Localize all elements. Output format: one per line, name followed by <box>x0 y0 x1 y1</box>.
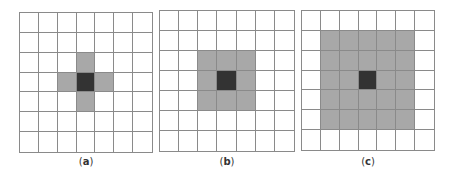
grid-cell <box>160 131 179 151</box>
grid-cell <box>302 110 321 130</box>
grid-cell <box>198 131 217 151</box>
grid-cell <box>39 33 58 53</box>
grid-cell <box>160 91 179 111</box>
grid-cell <box>275 111 294 131</box>
grid-cell <box>179 51 198 71</box>
grid-cell <box>359 130 378 150</box>
neighbor-cell <box>77 53 96 73</box>
label-paren-close: ) <box>231 156 235 167</box>
panel-label-a: (a) <box>66 156 106 167</box>
grid-cell <box>39 132 58 152</box>
grid-cell <box>114 33 133 53</box>
grid-cell <box>179 111 198 131</box>
grid-cell <box>39 112 58 132</box>
grid-cell <box>415 130 434 150</box>
grid-cell <box>179 91 198 111</box>
grid-cell <box>217 111 236 131</box>
grid-cell <box>340 11 359 31</box>
grid-cell <box>95 53 114 73</box>
grid-cell <box>20 53 39 73</box>
neighbor-cell <box>377 90 396 110</box>
grid-cell <box>39 13 58 33</box>
grid-cell <box>321 130 340 150</box>
panel-label-c: (c) <box>348 156 388 167</box>
grid-cell <box>133 33 152 53</box>
grid-cell <box>217 11 236 31</box>
grid-cell <box>217 31 236 51</box>
grid-cell <box>77 112 96 132</box>
neighbor-cell <box>321 31 340 51</box>
neighbor-cell <box>377 51 396 71</box>
grid-cell <box>58 53 77 73</box>
neighbor-cell <box>359 90 378 110</box>
neighbor-cell <box>340 71 359 91</box>
grid-cell <box>396 130 415 150</box>
grid-cell <box>58 132 77 152</box>
grid-cell <box>58 13 77 33</box>
neighbor-cell <box>237 71 256 91</box>
grid-cell <box>256 71 275 91</box>
grid-cell <box>275 51 294 71</box>
neighbor-cell <box>237 91 256 111</box>
grid-cell <box>114 73 133 93</box>
grid-cell <box>77 13 96 33</box>
neighbor-cell <box>77 92 96 112</box>
neighbor-cell <box>217 91 236 111</box>
grid-cell <box>179 11 198 31</box>
grid-cell <box>256 51 275 71</box>
grid-cell <box>20 132 39 152</box>
grid-cell <box>302 51 321 71</box>
grid-cell <box>179 131 198 151</box>
grid-cell <box>95 92 114 112</box>
neighbor-cell <box>377 71 396 91</box>
grid-cell <box>133 92 152 112</box>
neighbor-cell <box>321 71 340 91</box>
grid-cell <box>198 111 217 131</box>
grid-cell <box>160 71 179 91</box>
neighbor-cell <box>198 51 217 71</box>
grid-cell <box>160 11 179 31</box>
grid-cell <box>20 92 39 112</box>
neighbor-cell <box>396 51 415 71</box>
neighbor-cell <box>340 90 359 110</box>
neighbor-cell <box>95 73 114 93</box>
grid-cell <box>359 11 378 31</box>
grid-cell <box>114 13 133 33</box>
grid-cell <box>302 130 321 150</box>
neighbor-cell <box>198 71 217 91</box>
grid-cell <box>133 13 152 33</box>
grid-cell <box>20 33 39 53</box>
neighbor-cell <box>396 71 415 91</box>
neighbor-cell <box>359 110 378 130</box>
center-cell <box>217 71 236 91</box>
grid-cell <box>133 53 152 73</box>
grid-cell <box>39 53 58 73</box>
grid-cell <box>340 130 359 150</box>
grid-cell <box>160 51 179 71</box>
grid-cell <box>217 131 236 151</box>
grid-panel-a <box>19 12 153 153</box>
grid-cell <box>114 53 133 73</box>
center-cell <box>359 71 378 91</box>
grid-cell <box>77 132 96 152</box>
grid-cell <box>198 11 217 31</box>
grid-cell <box>302 11 321 31</box>
grid-cell <box>133 132 152 152</box>
grid-cell <box>95 13 114 33</box>
grid-cell <box>133 112 152 132</box>
grid-cell <box>237 111 256 131</box>
grid-panel-c <box>301 10 435 151</box>
grid-cell <box>377 11 396 31</box>
grid-cell <box>415 90 434 110</box>
neighbor-cell <box>340 51 359 71</box>
grid-cell <box>77 33 96 53</box>
grid-panel-b <box>159 10 295 152</box>
grid-cell <box>237 131 256 151</box>
grid-cell <box>396 11 415 31</box>
grid-cell <box>95 112 114 132</box>
grid-cell <box>256 131 275 151</box>
neighbor-cell <box>396 90 415 110</box>
grid-cell <box>415 51 434 71</box>
neighbor-cell <box>58 73 77 93</box>
neighbor-cell <box>396 31 415 51</box>
